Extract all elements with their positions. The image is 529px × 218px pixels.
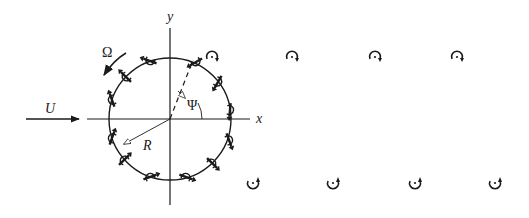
angle-label: Ψ — [187, 98, 198, 113]
vortex-ccw-icon — [490, 177, 503, 189]
radius-label: R — [142, 138, 152, 153]
wake-lower-row — [248, 177, 503, 189]
x-axis-label: x — [255, 111, 263, 126]
vortex-cw-icon — [287, 51, 300, 62]
vortex-cw-icon — [207, 51, 220, 62]
vortex-cw-icon — [370, 51, 383, 62]
freestream-label: U — [45, 101, 56, 116]
diagram-canvas: x y U Ω R Ψ — [0, 0, 529, 218]
vortex-ccw-icon — [248, 177, 261, 189]
angle-psi: Ψ — [170, 60, 202, 119]
vortex-cw-icon — [452, 51, 465, 62]
freestream-arrow: U — [26, 101, 79, 119]
radius-arrow: R — [124, 119, 170, 153]
wake-upper-row — [207, 51, 465, 62]
vortex-ccw-icon — [410, 177, 423, 189]
y-axis-label: y — [165, 9, 174, 24]
rotation-label: Ω — [102, 45, 112, 60]
vortex-ccw-icon — [328, 177, 341, 189]
